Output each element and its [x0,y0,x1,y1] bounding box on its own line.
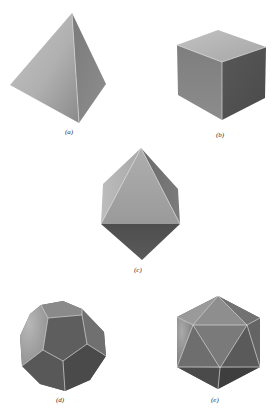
dodecahedron [20,301,106,391]
cube [177,30,266,120]
label-a: (a) [65,128,74,136]
octahedron [101,148,180,260]
label-c: (c) [134,266,142,274]
label-e: (e) [211,396,219,404]
octahedron-bottom-face [101,224,180,260]
tetrahedron-left-face [10,13,79,123]
icosahedron-bottom-right-face [218,367,260,389]
tetrahedron [10,13,106,123]
icosahedron-bottom-left-face [177,367,220,389]
label-b: (b) [216,131,225,139]
label-d: (d) [56,396,65,404]
icosahedron [177,296,260,389]
platonic-solids-figure: (a) (b) (c) [0,0,274,408]
